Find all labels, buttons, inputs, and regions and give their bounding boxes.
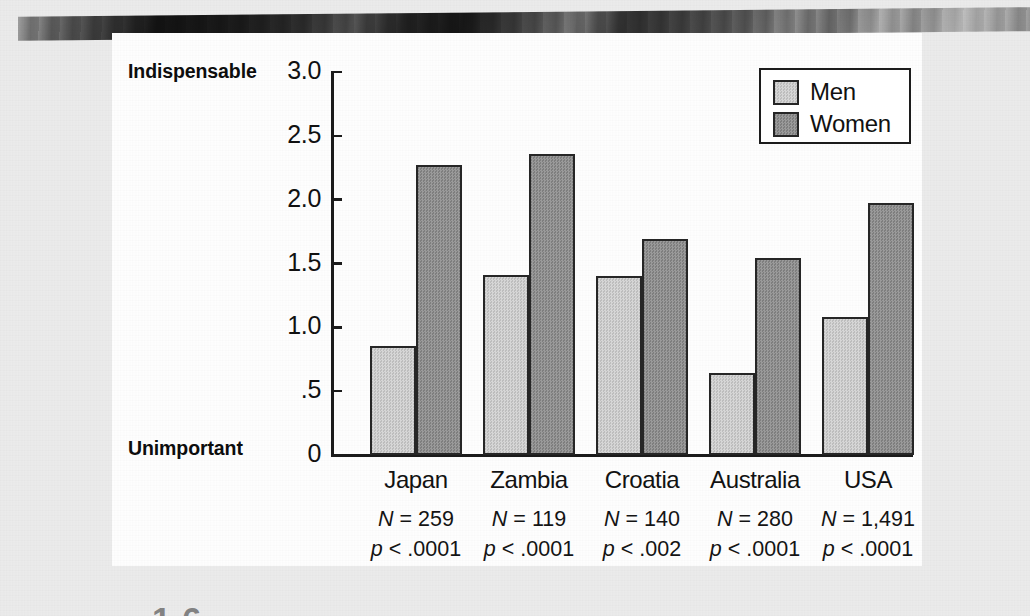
legend-swatch-women: [773, 112, 799, 137]
bar-usa-men: [822, 317, 868, 455]
y-axis-tick: [331, 198, 342, 201]
y-axis-tick: [331, 454, 342, 457]
y-axis-tick-label: 1.0: [261, 311, 321, 340]
legend-label-women: Women: [810, 110, 891, 138]
y-axis-tick-label: .5: [261, 375, 321, 404]
p-symbol: p: [823, 537, 835, 561]
y-axis-tick: [331, 71, 342, 74]
legend-item-men: Men: [773, 76, 909, 108]
n-symbol: N: [492, 507, 508, 531]
bar-chart: Indispensable Unimportant 0.51.01.52.02.…: [0, 0, 1030, 616]
y-axis-tick: [331, 326, 342, 329]
y-axis-tick-label: 0: [261, 439, 321, 468]
y-axis-tick: [331, 135, 342, 138]
legend-swatch-men: [773, 80, 799, 105]
n-value: = 1,491: [837, 507, 915, 531]
bar-japan-men: [370, 346, 416, 455]
bar-japan-women: [416, 165, 462, 455]
n-symbol: N: [378, 507, 394, 531]
bar-croatia-women: [642, 239, 688, 455]
p-symbol: p: [603, 537, 615, 561]
y-axis-tick-label: 3.0: [261, 56, 321, 85]
y-axis-low-label: Unimportant: [128, 437, 243, 460]
p-value-line: p < .0001: [778, 534, 958, 564]
y-axis-tick-label: 2.5: [261, 120, 321, 149]
y-axis-tick-label: 1.5: [261, 248, 321, 277]
n-symbol: N: [717, 507, 733, 531]
p-symbol: p: [371, 537, 383, 561]
n-symbol: N: [604, 507, 620, 531]
bar-croatia-men: [596, 276, 642, 455]
bar-australia-men: [709, 373, 755, 455]
x-axis-label-usa: USA: [778, 466, 958, 494]
y-axis-high-label: Indispensable: [128, 60, 257, 83]
p-symbol: p: [484, 537, 496, 561]
n-symbol: N: [821, 507, 837, 531]
y-axis-tick-label: 2.0: [261, 184, 321, 213]
y-axis-tick: [331, 262, 342, 265]
legend-label-men: Men: [810, 78, 856, 106]
stats-usa: N = 1,491p < .0001: [778, 504, 958, 564]
bar-zambia-men: [483, 275, 529, 455]
chart-legend: MenWomen: [759, 68, 911, 144]
caption-bleedthrough: 1.6: [152, 600, 202, 616]
sample-size-line: N = 1,491: [778, 504, 958, 534]
bar-australia-women: [755, 258, 801, 455]
legend-item-women: Women: [773, 108, 909, 140]
p-symbol: p: [710, 537, 722, 561]
p-value: < .0001: [835, 537, 913, 561]
bar-usa-women: [868, 203, 914, 455]
y-axis-tick: [331, 390, 342, 393]
bar-zambia-women: [529, 154, 575, 455]
